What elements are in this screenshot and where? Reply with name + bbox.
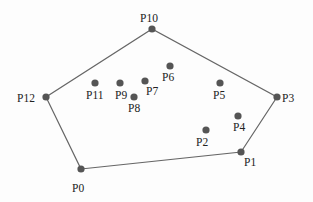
point-layer — [42, 25, 280, 172]
point-p4 — [234, 112, 241, 119]
label-p6: P6 — [162, 71, 174, 83]
label-p0: P0 — [72, 182, 84, 194]
label-p9: P9 — [115, 89, 127, 101]
label-p2: P2 — [196, 136, 208, 148]
point-p10 — [148, 25, 155, 32]
point-p11 — [91, 79, 98, 86]
point-p0 — [77, 165, 84, 172]
label-p5: P5 — [213, 89, 225, 101]
label-p7: P7 — [146, 85, 158, 97]
point-p3 — [273, 93, 280, 100]
point-p8 — [130, 93, 137, 100]
label-p4: P4 — [233, 121, 245, 133]
point-p12 — [42, 93, 49, 100]
label-p12: P12 — [17, 92, 35, 104]
convex-hull-diagram: P0P1P2P3P4P5P6P7P8P9P10P11P12 — [0, 0, 313, 202]
label-p10: P10 — [140, 12, 158, 24]
point-p9 — [116, 79, 123, 86]
point-p5 — [216, 79, 223, 86]
point-p2 — [202, 126, 209, 133]
label-p3: P3 — [282, 92, 294, 104]
point-p1 — [237, 148, 244, 155]
convex-hull-polygon — [46, 29, 277, 169]
label-p1: P1 — [244, 156, 256, 168]
point-p7 — [141, 77, 148, 84]
label-layer: P0P1P2P3P4P5P6P7P8P9P10P11P12 — [17, 12, 294, 194]
label-p11: P11 — [86, 89, 104, 101]
point-p6 — [166, 62, 173, 69]
label-p8: P8 — [128, 102, 140, 114]
